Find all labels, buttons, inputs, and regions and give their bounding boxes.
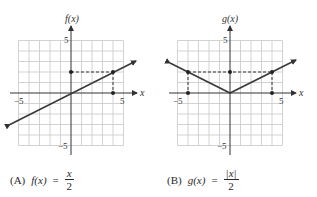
function-name: f(x) xyxy=(31,174,46,186)
denominator: 2 xyxy=(66,180,72,192)
tick-x-neg: −5 xyxy=(173,96,183,106)
numerator: x xyxy=(65,168,74,180)
graph-b-svg: g(x) x −5 5 5 −5 xyxy=(159,0,317,165)
caption-label: (B) xyxy=(167,174,182,186)
denominator: 2 xyxy=(228,180,234,192)
x-axis-label: x xyxy=(139,87,145,98)
tick-y-neg: −5 xyxy=(58,141,68,151)
tick-y-neg: −5 xyxy=(217,141,227,151)
numerator: |x| xyxy=(224,168,239,180)
tick-y-pos: 5 xyxy=(223,35,228,45)
graph-panel-b: g(x) x −5 5 5 −5 (B) g(x) = |x| 2 xyxy=(159,0,317,197)
tick-x-pos: 5 xyxy=(120,96,125,106)
caption-a: (A) f(x) = x 2 xyxy=(10,168,74,192)
x-axis-label: x xyxy=(298,87,304,98)
tick-y-pos: 5 xyxy=(64,35,69,45)
graph-panel-a: f(x) x −5 5 5 −5 (A) f(x) = x 2 xyxy=(0,0,158,197)
y-axis-label: f(x) xyxy=(65,13,80,25)
equals-sign: = xyxy=(211,174,217,186)
caption-label: (A) xyxy=(10,174,25,186)
fraction: |x| 2 xyxy=(224,168,239,192)
tick-x-pos: 5 xyxy=(279,96,284,106)
fraction: x 2 xyxy=(65,168,74,192)
y-axis-label: g(x) xyxy=(222,13,239,25)
function-name: g(x) xyxy=(188,174,206,186)
caption-b: (B) g(x) = |x| 2 xyxy=(167,168,239,192)
equals-sign: = xyxy=(53,174,59,186)
function-curve xyxy=(170,60,296,93)
graph-a-svg: f(x) x −5 5 5 −5 xyxy=(0,0,158,165)
tick-x-neg: −5 xyxy=(14,96,24,106)
